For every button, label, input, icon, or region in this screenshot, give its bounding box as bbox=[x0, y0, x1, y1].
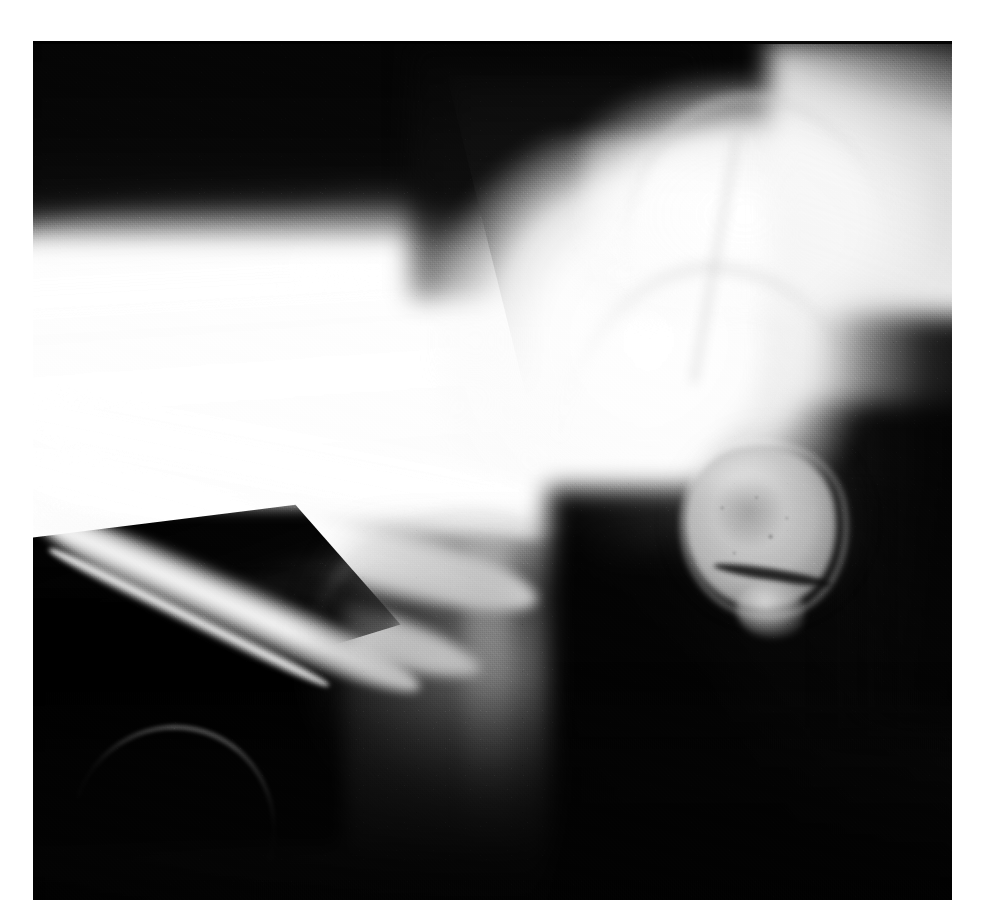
radiograph-image bbox=[33, 41, 952, 900]
page-root bbox=[0, 0, 983, 923]
film-vignette bbox=[33, 41, 952, 900]
film-edge bbox=[33, 41, 952, 44]
